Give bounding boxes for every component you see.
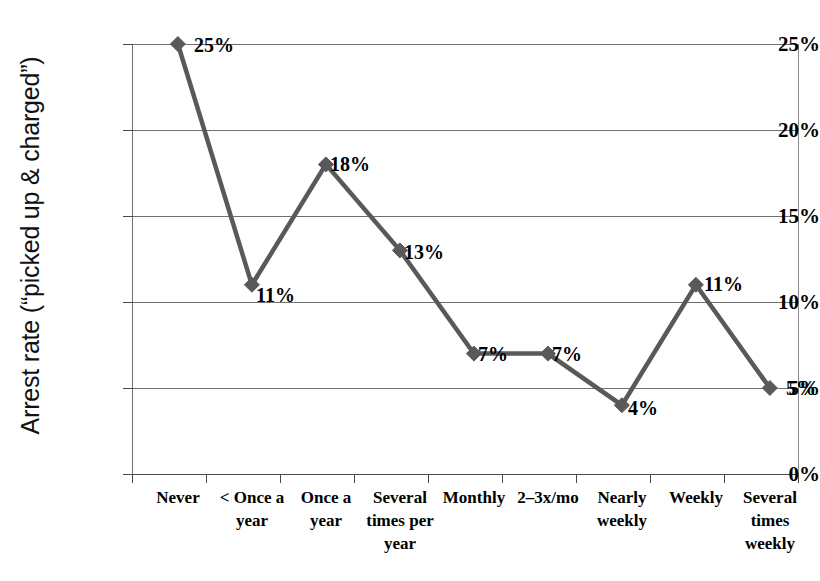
x-tick-mark-6	[576, 474, 577, 483]
y-tick-mark-5	[123, 388, 133, 389]
chart-figure: Arrest rate (“picked up & charged”) 25% …	[0, 0, 820, 581]
y-axis-line	[132, 44, 133, 474]
data-label-4: 7%	[478, 343, 508, 366]
x-tick-mark-2	[280, 474, 281, 483]
plot-area	[132, 44, 798, 474]
gridline-5	[132, 388, 798, 389]
y-tick-label-10: 10%	[744, 290, 820, 315]
data-label-5: 7%	[552, 343, 582, 366]
y-tick-label-15: 15%	[744, 204, 820, 229]
y-tick-label-0: 0%	[744, 462, 820, 487]
gridline-10	[132, 302, 798, 303]
x-category-label-once-a-year: Once a year	[289, 486, 363, 532]
x-tick-mark-9	[798, 474, 799, 483]
plot-right-border	[798, 44, 799, 474]
x-category-label-nearly-weekly: Nearly weekly	[585, 486, 659, 532]
x-category-label-weekly: Weekly	[659, 486, 733, 509]
y-tick-mark-20	[123, 130, 133, 131]
y-tick-label-25: 25%	[744, 32, 820, 57]
x-category-label-lt-once-a-year: < Once a year	[215, 486, 289, 532]
x-tick-mark-3	[354, 474, 355, 483]
y-tick-mark-25	[123, 44, 133, 45]
data-label-1: 11%	[256, 284, 295, 307]
x-tick-mark-0	[132, 474, 133, 483]
y-tick-mark-10	[123, 302, 133, 303]
data-label-8: 5%	[786, 377, 816, 400]
y-axis-title: Arrest rate (“picked up & charged”)	[0, 0, 62, 490]
data-label-6: 4%	[628, 397, 658, 420]
y-tick-label-20: 20%	[744, 118, 820, 143]
data-label-2: 18%	[330, 153, 370, 176]
data-label-0: 25%	[194, 34, 234, 57]
x-category-label-several-per-year: Several times per year	[363, 486, 437, 555]
gridline-20	[132, 130, 798, 131]
gridline-15	[132, 216, 798, 217]
x-axis-line	[132, 474, 798, 475]
x-tick-mark-8	[724, 474, 725, 483]
x-category-label-monthly: Monthly	[437, 486, 511, 509]
y-tick-mark-15	[123, 216, 133, 217]
data-label-3: 13%	[404, 241, 444, 264]
x-category-label-never: Never	[141, 486, 215, 509]
x-tick-mark-1	[206, 474, 207, 483]
x-category-label-2-3x-mo: 2–3x/mo	[511, 486, 585, 509]
x-tick-mark-5	[502, 474, 503, 483]
x-tick-mark-7	[650, 474, 651, 483]
data-label-7: 11%	[704, 273, 743, 296]
y-axis-title-text: Arrest rate (“picked up & charged”)	[17, 56, 46, 434]
x-category-label-several-weekly: Several times weekly	[733, 486, 807, 555]
x-tick-mark-4	[428, 474, 429, 483]
